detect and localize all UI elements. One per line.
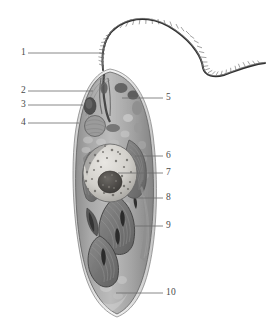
nucleolus <box>98 171 122 193</box>
flagellum-icon <box>98 18 265 76</box>
cell-diagram-svg <box>0 0 273 332</box>
label-number-7: 7 <box>166 167 171 177</box>
figure-canvas: 1 2 3 4 5 6 7 8 9 10 <box>0 0 273 332</box>
label-number-3: 3 <box>14 99 26 109</box>
label-number-5: 5 <box>166 92 171 102</box>
label-number-8: 8 <box>166 192 171 202</box>
label-number-9: 9 <box>166 220 171 230</box>
anterior-vesicle <box>85 116 106 137</box>
label-number-1: 1 <box>14 47 26 57</box>
label-number-2: 2 <box>14 85 26 95</box>
label-number-4: 4 <box>14 117 26 127</box>
label-number-10: 10 <box>166 287 176 297</box>
label-number-6: 6 <box>166 150 171 160</box>
cell-body <box>73 69 156 317</box>
